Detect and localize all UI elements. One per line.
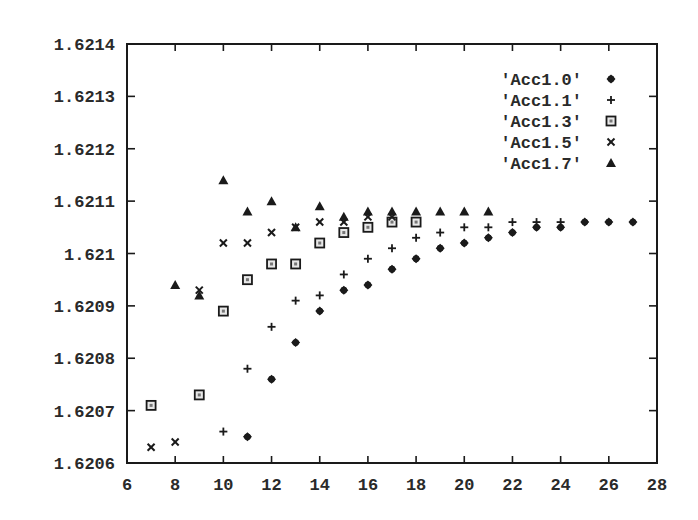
triangle-marker <box>315 201 325 210</box>
cross-marker <box>172 439 179 446</box>
legend-label: 'Acc1.5' <box>500 134 582 153</box>
series-acc1-1 <box>219 218 564 436</box>
x-tick-label: 16 <box>358 476 378 495</box>
diamond-marker <box>508 228 517 237</box>
triangle-marker <box>291 222 301 231</box>
plus-marker <box>340 270 348 278</box>
plus-marker <box>219 428 227 436</box>
diamond-marker <box>267 375 276 384</box>
square-marker <box>267 259 276 268</box>
diamond-marker <box>243 432 252 441</box>
legend-plus-icon <box>607 96 615 104</box>
triangle-marker <box>339 212 349 221</box>
plus-marker <box>436 229 444 237</box>
y-tick-label: 1.6208 <box>54 350 115 369</box>
plus-marker <box>388 244 396 252</box>
plus-marker <box>557 218 565 226</box>
square-marker <box>243 275 252 284</box>
x-tick-label: 14 <box>310 476 330 495</box>
x-tick-label: 26 <box>599 476 619 495</box>
plus-marker <box>460 223 468 231</box>
legend-label: 'Acc1.0' <box>500 71 582 90</box>
x-tick-label: 20 <box>454 476 474 495</box>
x-tick-label: 24 <box>550 476 570 495</box>
series-acc1-7 <box>170 175 493 299</box>
plus-marker <box>533 218 541 226</box>
plus-marker <box>364 255 372 263</box>
legend-label: 'Acc1.1' <box>500 92 582 111</box>
diamond-marker <box>412 254 421 263</box>
x-tick-label: 18 <box>406 476 426 495</box>
triangle-marker <box>411 207 421 216</box>
y-tick-label: 1.6213 <box>54 88 115 107</box>
x-tick-label: 22 <box>502 476 522 495</box>
plus-marker <box>268 323 276 331</box>
diamond-marker <box>628 218 637 227</box>
square-marker <box>291 259 300 268</box>
y-tick-label: 1.6211 <box>54 193 115 212</box>
square-marker <box>363 223 372 232</box>
x-tick-label: 10 <box>213 476 233 495</box>
legend: 'Acc1.0''Acc1.1''Acc1.3''Acc1.5''Acc1.7' <box>500 71 616 174</box>
triangle-marker <box>483 207 493 216</box>
square-marker <box>219 307 228 316</box>
diamond-marker <box>436 244 445 253</box>
diamond-marker <box>604 218 613 227</box>
triangle-marker <box>242 207 252 216</box>
plus-marker <box>292 297 300 305</box>
square-marker <box>315 239 324 248</box>
cross-marker <box>316 219 323 226</box>
y-tick-label: 1.6214 <box>54 36 115 55</box>
plus-marker <box>484 223 492 231</box>
cross-marker <box>148 444 155 451</box>
diamond-marker <box>291 338 300 347</box>
legend-diamond-icon <box>607 75 616 84</box>
series-acc1-5 <box>148 213 396 450</box>
square-marker <box>412 218 421 227</box>
triangle-marker <box>170 280 180 289</box>
legend-square-icon <box>607 117 616 126</box>
square-marker <box>147 401 156 410</box>
diamond-marker <box>339 286 348 295</box>
cross-marker <box>244 240 251 247</box>
y-tick-label: 1.6212 <box>54 141 115 160</box>
y-tick-label: 1.6209 <box>54 298 115 317</box>
triangle-marker <box>387 207 397 216</box>
y-tick-label: 1.621 <box>64 246 115 265</box>
triangle-marker <box>218 175 228 184</box>
x-tick-label: 28 <box>647 476 667 495</box>
triangle-marker <box>435 207 445 216</box>
plus-marker <box>243 365 251 373</box>
y-tick-label: 1.6207 <box>54 403 115 422</box>
series-acc1-0 <box>243 218 637 442</box>
x-tick-label: 8 <box>170 476 180 495</box>
triangle-marker <box>459 207 469 216</box>
triangle-marker <box>363 207 373 216</box>
x-tick-label: 6 <box>122 476 132 495</box>
scatter-chart: 1.62061.62071.62081.62091.6211.62111.621… <box>0 0 698 520</box>
triangle-marker <box>194 290 204 299</box>
x-tick-label: 12 <box>261 476 281 495</box>
legend-cross-icon <box>608 139 615 146</box>
y-tick-label: 1.6206 <box>54 455 115 474</box>
legend-triangle-icon <box>606 158 616 167</box>
legend-label: 'Acc1.3' <box>500 113 582 132</box>
series-acc1-3 <box>147 218 421 410</box>
diamond-marker <box>580 218 589 227</box>
diamond-marker <box>460 239 469 248</box>
plus-marker <box>508 218 516 226</box>
diamond-marker <box>315 307 324 316</box>
square-marker <box>339 228 348 237</box>
cross-marker <box>268 229 275 236</box>
diamond-marker <box>484 233 493 242</box>
plus-marker <box>412 234 420 242</box>
data-points <box>147 175 638 451</box>
diamond-marker <box>363 280 372 289</box>
cross-marker <box>220 240 227 247</box>
square-marker <box>195 390 204 399</box>
legend-label: 'Acc1.7' <box>500 155 582 174</box>
plus-marker <box>316 291 324 299</box>
triangle-marker <box>267 196 277 205</box>
diamond-marker <box>388 265 397 274</box>
